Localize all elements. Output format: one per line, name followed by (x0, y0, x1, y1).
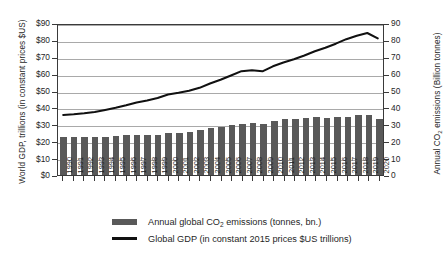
x-axis-label-2014: 2014 (318, 157, 327, 183)
y-axis-right-tick-label: 0 (391, 171, 421, 179)
y-axis-right-tick-label: 20 (391, 138, 421, 146)
line-series-layer (58, 25, 383, 175)
y-axis-right-tick-mark (384, 125, 389, 126)
legend-label-co2: Annual global CO2 emissions (tonnes, bn.… (148, 217, 321, 227)
chart-legend: Annual global CO2 emissions (tonnes, bn.… (0, 213, 445, 247)
y-axis-right-tick-label: 80 (391, 36, 421, 44)
y-axis-left-tick-label: $40 (8, 104, 50, 112)
x-axis-label-1998: 1998 (150, 157, 159, 183)
legend-item-co2: Annual global CO2 emissions (tonnes, bn.… (0, 213, 445, 230)
y-axis-right-tick-label: 60 (391, 70, 421, 78)
y-axis-right-tick-mark (384, 92, 389, 93)
legend-bar-swatch-icon (112, 219, 137, 225)
y-axis-right-tick-mark (384, 75, 389, 76)
y-axis-right-tick-label: 30 (391, 121, 421, 129)
plot-area (57, 24, 384, 176)
x-axis-label-2020: 2020 (382, 157, 391, 183)
y-axis-left-tick-label: $30 (8, 121, 50, 129)
y-axis-right-tick-label: 10 (391, 155, 421, 163)
y-axis-left-tick-label: $80 (8, 36, 50, 44)
y-axis-right-tick-mark (384, 142, 389, 143)
x-axis-label-2005: 2005 (224, 157, 233, 183)
legend-label-co2-suffix: emissions (tonnes, bn.) (224, 217, 322, 227)
x-axis-label-2017: 2017 (350, 157, 359, 183)
y-axis-left-tick-label: $90 (8, 19, 50, 27)
x-axis-label-1993: 1993 (97, 157, 106, 183)
x-axis-label-2010: 2010 (276, 157, 285, 183)
x-axis-label-1995: 1995 (118, 157, 127, 183)
y-axis-right-tick-label: 70 (391, 53, 421, 61)
x-axis-label-1999: 1999 (160, 157, 169, 183)
x-axis-label-2001: 2001 (181, 157, 190, 183)
x-axis-label-2012: 2012 (297, 157, 306, 183)
legend-label-co2-prefix: Annual global CO (148, 217, 220, 227)
y-axis-right-tick-label: 90 (391, 19, 421, 27)
x-axis-label-1997: 1997 (139, 157, 148, 183)
x-axis-label-2008: 2008 (255, 157, 264, 183)
x-axis-label-1994: 1994 (107, 157, 116, 183)
y-axis-right-tick-mark (384, 24, 389, 25)
y-axis-right-tick-label: 50 (391, 87, 421, 95)
legend-item-gdp: Global GDP (in constant 2015 prices $US … (0, 230, 445, 247)
y-axis-left-tick-label: $0 (8, 171, 50, 179)
x-axis-tick-mark (62, 176, 63, 181)
x-axis-label-2007: 2007 (245, 157, 254, 183)
x-axis-label-2019: 2019 (371, 157, 380, 183)
y-axis-left-tick-label: $10 (8, 155, 50, 163)
x-axis-label-2006: 2006 (234, 157, 243, 183)
y-axis-right-tick-mark (384, 58, 389, 59)
y-axis-right-title: Annual CO2 emissions (Billion tonnes) (433, 19, 442, 189)
x-axis-label-1996: 1996 (129, 157, 138, 183)
co2-gdp-chart: World GDP, trillions (in constant prices… (0, 0, 445, 254)
x-axis-label-1990: 1990 (65, 157, 74, 183)
x-axis-label-2000: 2000 (171, 157, 180, 183)
x-axis-label-2004: 2004 (213, 157, 222, 183)
x-axis-label-1991: 1991 (76, 157, 85, 183)
y-axis-left-tick-label: $60 (8, 70, 50, 78)
y-axis-right-tick-mark (384, 108, 389, 109)
y-axis-right-title-suffix: emissions (Billion tonnes) (433, 32, 442, 130)
x-axis-label-2003: 2003 (202, 157, 211, 183)
x-axis-label-2015: 2015 (329, 157, 338, 183)
y-axis-left-tick-label: $50 (8, 87, 50, 95)
x-axis-label-2013: 2013 (308, 157, 317, 183)
x-axis-label-2011: 2011 (287, 157, 296, 183)
y-axis-right-title-subscript: 2 (436, 130, 442, 133)
x-axis-label-2016: 2016 (340, 157, 349, 183)
y-axis-right-tick-mark (384, 41, 389, 42)
legend-line-swatch-icon (112, 237, 137, 240)
x-axis-label-1992: 1992 (86, 157, 95, 183)
x-axis-label-2002: 2002 (192, 157, 201, 183)
y-axis-left-tick-label: $20 (8, 138, 50, 146)
y-axis-right-title-prefix: Annual CO (433, 134, 442, 175)
y-axis-right-tick-label: 40 (391, 104, 421, 112)
x-axis-label-2018: 2018 (361, 157, 370, 183)
legend-label-gdp: Global GDP (in constant 2015 prices $US … (148, 234, 352, 244)
legend-label-co2-subscript: 2 (220, 221, 224, 228)
y-axis-left-tick-label: $70 (8, 53, 50, 61)
x-axis-label-2009: 2009 (266, 157, 275, 183)
gdp-line-path (63, 33, 378, 115)
